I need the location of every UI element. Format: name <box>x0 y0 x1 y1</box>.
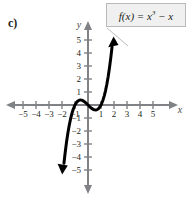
figure-container: c) <box>0 0 189 198</box>
y-tick-label: 1 <box>77 87 82 97</box>
cubic-graph-plot: −5 −4 −3 −2 −1 1 2 3 4 5 5 4 3 2 1 −1 −2… <box>0 0 189 198</box>
x-tick-label: 2 <box>112 109 117 119</box>
function-label: f(x) = x3 − x <box>119 9 173 22</box>
y-tick-label: 4 <box>77 48 82 58</box>
function-callout-box: f(x) = x3 − x <box>106 3 186 27</box>
y-tick-label: −4 <box>71 152 81 162</box>
x-tick-label: −3 <box>44 109 54 119</box>
x-tick-label: 1 <box>99 109 104 119</box>
x-tick-label: 3 <box>125 109 130 119</box>
x-tick-label: −5 <box>18 109 28 119</box>
x-axis-label: x <box>177 104 183 115</box>
x-tick-label: −2 <box>57 109 67 119</box>
y-tick-label: 2 <box>77 74 82 84</box>
x-tick-label: 4 <box>138 109 143 119</box>
x-tick-label: −4 <box>31 109 41 119</box>
x-tick-label: 5 <box>151 109 156 119</box>
y-axis-label: y <box>76 19 82 30</box>
y-tick-label: −3 <box>71 139 81 149</box>
y-tick-label: −5 <box>71 165 81 175</box>
y-tick-label: 5 <box>77 35 82 45</box>
y-tick-label: 3 <box>77 61 82 71</box>
y-tick-label: −2 <box>71 126 81 136</box>
